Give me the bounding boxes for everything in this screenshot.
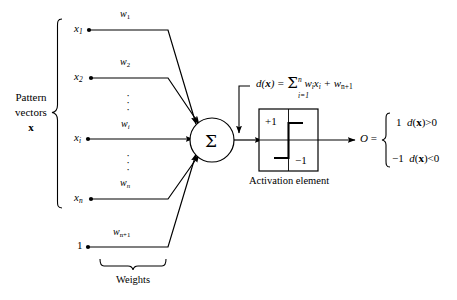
output-case-positive: 1 d(x)>0 xyxy=(396,117,437,128)
discriminant-formula: d(x) = Σn. wixi + wn+1 xyxy=(256,76,353,92)
discriminant-leader-line xyxy=(239,86,250,133)
perceptron-diagram: Pattern vectors x x1 w1 x2 w2 · · · xi w… xyxy=(0,0,457,300)
weights-brace xyxy=(100,259,166,270)
formula-lower-limit: i=1 xyxy=(298,92,309,100)
activation-high-label: +1 xyxy=(265,116,277,127)
weight-label-wi: wi xyxy=(121,119,130,131)
input-line-bias xyxy=(86,154,196,249)
output-symbol: O = xyxy=(360,133,377,144)
weight-label-wn1: wn+1 xyxy=(113,227,130,239)
summation-symbol: Σ xyxy=(205,131,217,151)
input-line-x2 xyxy=(89,76,199,124)
activation-element-caption: Activation element xyxy=(246,176,332,187)
formula-terms: wixi + wn+1 xyxy=(304,77,352,89)
pattern-vectors-brace xyxy=(52,19,62,208)
diagram-vector-layer xyxy=(0,0,457,300)
input-label-x1: x1 xyxy=(74,23,83,36)
input-label-bias: 1 xyxy=(77,240,83,251)
pattern-vectors-label-line2: vectors xyxy=(9,107,53,118)
pattern-vectors-label-line1: Pattern xyxy=(9,92,53,103)
input-label-xi: xi xyxy=(74,132,81,145)
output-case-negative: −1 d(x)<0 xyxy=(392,153,439,164)
vertical-dots-upper: · · · xyxy=(122,92,134,113)
vertical-dots-lower: · · · xyxy=(122,152,134,173)
output-cases-brace xyxy=(382,113,390,167)
formula-sigma: Σ xyxy=(287,76,298,91)
input-line-xn xyxy=(89,155,199,201)
discriminant-lhs: d(x) = xyxy=(256,77,285,89)
formula-limits: n. xyxy=(298,76,302,91)
weight-label-w2: w2 xyxy=(120,57,130,69)
weights-brace-label: Weights xyxy=(93,275,173,286)
weight-label-wn: wn xyxy=(120,178,130,190)
input-line-x1 xyxy=(87,28,196,124)
input-line-xi xyxy=(86,137,193,141)
weight-label-w1: w1 xyxy=(120,9,130,21)
activation-low-label: −1 xyxy=(295,155,307,166)
pattern-vectors-label-line3: x xyxy=(9,122,53,133)
input-label-xn: xn xyxy=(74,192,83,205)
input-label-x2: x2 xyxy=(74,71,83,84)
